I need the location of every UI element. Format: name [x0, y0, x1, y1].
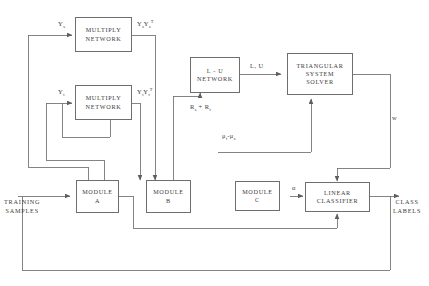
node-label-line: LINEAR [324, 189, 351, 197]
edge-label-alpha: α [292, 185, 296, 191]
node-module-c[interactable]: MODULE C [235, 181, 280, 211]
io-label-class-labels: CLASS LABELS [393, 198, 421, 216]
node-module-b[interactable]: MODULE B [146, 180, 191, 213]
diagram-canvas: MULTIPLY NETWORK MULTIPLY NETWORK L - U … [0, 0, 429, 286]
node-label-line: NETWORK [197, 75, 233, 83]
diagram-connections [0, 0, 429, 286]
node-label-line: MULTIPLY [86, 94, 122, 102]
node-label-line: MODULE [242, 188, 273, 196]
io-label-class-labels-line2: LABELS [393, 207, 421, 216]
edge-label-w: w [392, 115, 397, 121]
node-label-line: TRIANGULAR [296, 62, 343, 70]
edge-label-y-t: Yt [58, 89, 64, 95]
node-linear-classifier[interactable]: LINEAR CLASSIFIER [305, 182, 370, 212]
edge-label-mu-s1: t [226, 136, 227, 141]
node-lu-network[interactable]: L - U NETWORK [190, 57, 240, 93]
node-label-line: A [95, 197, 100, 205]
edge-label-y-s: Ys [58, 21, 65, 27]
edge-label-ys-yst-s1: s [142, 24, 144, 29]
edge-mu-diff-to-solver [218, 99, 311, 152]
edge-label-rt-b2: R [205, 103, 210, 110]
node-label-line: B [166, 197, 171, 205]
edge-multiply-t-to-module-b [132, 103, 140, 180]
edge-label-rs-plus-rt: Rs + Rt [190, 104, 211, 110]
io-label-class-labels-line1: CLASS [393, 198, 421, 207]
node-label-line: SOLVER [306, 78, 334, 86]
edge-label-yt-ytt: YtYtT [137, 89, 152, 95]
node-label-line: MODULE [153, 188, 184, 196]
node-label-line: MODULE [82, 188, 113, 196]
node-label-line: MULTIPLY [86, 26, 122, 34]
edge-label-yt-ytt-s2: t [148, 92, 149, 97]
edge-label-ys-yst-s2: s [149, 24, 151, 29]
node-triangular-system-solver[interactable]: TRIANGULAR SYSTEM SOLVER [287, 53, 353, 95]
edge-label-l-u: L, U [250, 63, 264, 69]
node-label-line: L - U [207, 67, 224, 75]
edge-bus-to-classifier-bottom [268, 214, 337, 228]
node-label-line: NETWORK [86, 103, 122, 111]
node-label-line: C [255, 196, 260, 204]
node-label-line: CLASSIFIER [317, 197, 359, 205]
edge-label-y-s-sub: s [63, 24, 65, 29]
edge-label-ys-yst-sup: T [151, 19, 154, 24]
edge-label-mu-diff: μt-μs [222, 133, 235, 139]
io-label-training-samples-line1: TRAINING [4, 198, 40, 207]
node-label-line: SYSTEM [306, 70, 335, 78]
io-label-training-samples: TRAINING SAMPLES [4, 198, 40, 216]
edge-multiply-s-to-module-b [132, 35, 155, 180]
node-multiply-network-s[interactable]: MULTIPLY NETWORK [75, 17, 132, 52]
io-label-training-samples-line2: SAMPLES [4, 207, 40, 216]
edge-label-ys-yst: YsYsT [137, 21, 153, 27]
node-label-line: NETWORK [86, 35, 122, 43]
edge-label-rs-op: + [199, 103, 203, 110]
edge-label-rt-s2: t [210, 107, 211, 112]
node-module-a[interactable]: MODULE A [76, 180, 119, 213]
node-multiply-network-t[interactable]: MULTIPLY NETWORK [75, 85, 132, 120]
